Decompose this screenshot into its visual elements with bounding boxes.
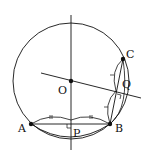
right-angle-marker-p	[67, 124, 71, 128]
label-o: O	[58, 84, 67, 97]
point-b	[108, 122, 112, 126]
arc-ab-lower	[31, 124, 110, 137]
label-q: Q	[122, 78, 131, 91]
chord-bc	[110, 59, 123, 124]
right-angle-marker-q	[117, 94, 121, 99]
point-c	[121, 57, 125, 61]
label-a: A	[17, 122, 27, 135]
label-p: P	[73, 127, 81, 140]
brace-ap	[31, 117, 71, 124]
label-b: B	[115, 122, 123, 135]
geometry-diagram: O A B C P Q	[0, 0, 152, 160]
brace-pb	[71, 117, 110, 124]
point-o	[69, 79, 73, 83]
label-c: C	[126, 48, 134, 61]
point-a	[29, 122, 33, 126]
